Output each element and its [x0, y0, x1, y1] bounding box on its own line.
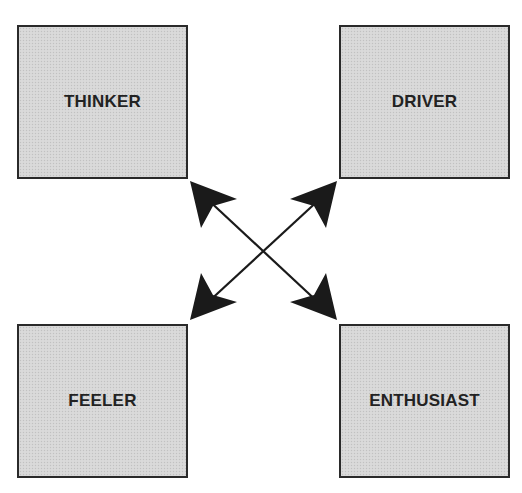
quadrant-enthusiast: ENTHUSIAST [339, 324, 510, 478]
arrowhead-icon [290, 181, 337, 228]
quadrant-label-enthusiast: ENTHUSIAST [369, 391, 480, 411]
quadrant-label-thinker: THINKER [64, 92, 141, 112]
quadrant-thinker: THINKER [17, 25, 188, 179]
arrowhead-icon [190, 273, 237, 320]
arrowhead-icon [190, 181, 237, 228]
double-arrow-driver-feeler [190, 181, 337, 320]
quadrant-feeler: FEELER [17, 324, 188, 478]
quadrant-label-feeler: FEELER [68, 391, 136, 411]
arrow-shaft-icon [205, 197, 321, 305]
quadrant-label-driver: DRIVER [392, 92, 457, 112]
double-arrow-thinker-enthusiast [190, 181, 337, 320]
quadrant-driver: DRIVER [339, 25, 510, 179]
arrowhead-icon [290, 273, 337, 320]
arrow-shaft-icon [205, 197, 322, 305]
